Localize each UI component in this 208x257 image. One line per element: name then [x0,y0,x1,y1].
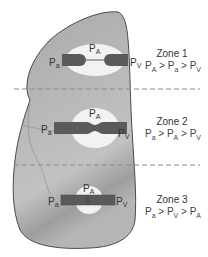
venous-segment [104,54,128,66]
narrowed-vessel [54,122,127,134]
arterial-segment [62,54,86,66]
zone3-title: Zone 3 [137,194,207,205]
zone2-title: Zone 2 [137,116,207,127]
zone2-relation: Pa > PA > PV [133,128,208,141]
zone1-title: Zone 1 [137,48,207,59]
zone1-relation: PA > Pa > PV [133,60,208,73]
zone3-relation: Pa > PV > PA [133,206,208,219]
